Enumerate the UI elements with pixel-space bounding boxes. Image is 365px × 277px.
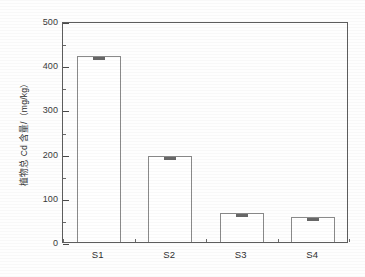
y-axis-tick-major: [63, 156, 69, 157]
y-axis-tick-minor: [63, 178, 66, 179]
x-axis-category-label: S4: [306, 250, 318, 260]
y-axis-tick-label: 200: [43, 150, 58, 159]
y-axis-tick-label: 300: [43, 106, 58, 115]
y-axis-tick-label: 500: [43, 18, 58, 27]
x-axis-tick-boundary: [349, 239, 350, 242]
y-axis-title: 植物总 Cd 含量/（mg/kg）: [16, 22, 32, 243]
x-axis-category-label: S3: [235, 250, 247, 260]
bar: [77, 56, 121, 242]
figure-canvas: 植物总 Cd 含量/（mg/kg） 0100200300400500 S1S2S…: [0, 0, 365, 277]
y-axis-tick-minor: [63, 45, 66, 46]
y-axis-tick-major: [63, 111, 69, 112]
error-bar-marker: [93, 57, 105, 60]
y-axis-tick-major: [63, 67, 69, 68]
y-axis-tick-major: [63, 244, 69, 245]
x-axis-category-label: S1: [92, 250, 104, 260]
y-axis-tick-major: [63, 23, 69, 24]
y-axis-tick-minor: [63, 222, 66, 223]
bar: [148, 156, 192, 242]
y-axis-tick-label: 0: [53, 239, 58, 248]
x-axis-tick-boundary: [135, 239, 136, 242]
bar: [220, 213, 264, 242]
y-axis-tick-minor: [63, 134, 66, 135]
y-axis-tick-minor: [63, 89, 66, 90]
error-bar-marker: [236, 214, 248, 217]
error-bar-marker: [307, 218, 319, 221]
y-axis-title-container: 植物总 Cd 含量/（mg/kg）: [6, 22, 22, 243]
x-axis-tick-boundary: [206, 239, 207, 242]
y-axis-tick-major: [63, 200, 69, 201]
y-axis-tick-label: 100: [43, 194, 58, 203]
x-axis-tick-boundary: [63, 239, 64, 242]
x-axis-tick-boundary: [278, 239, 279, 242]
plot-area: [62, 22, 348, 243]
x-axis-category-label: S2: [163, 250, 175, 260]
error-bar-marker: [164, 157, 176, 160]
y-axis-tick-label: 400: [43, 62, 58, 71]
